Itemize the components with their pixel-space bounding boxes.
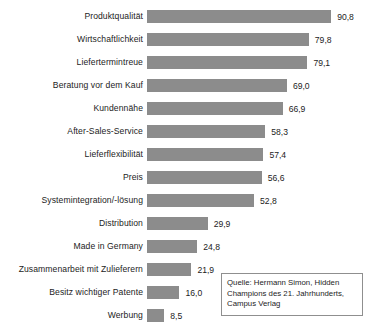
category-label: Wirtschaftlichkeit bbox=[0, 33, 143, 46]
value-label: 79,1 bbox=[313, 57, 330, 69]
value-label: 69,0 bbox=[293, 80, 310, 92]
bar bbox=[147, 125, 265, 138]
category-label: Preis bbox=[0, 171, 143, 184]
bar-track: 57,4 bbox=[143, 148, 370, 161]
bar bbox=[147, 286, 179, 299]
value-label: 57,4 bbox=[269, 149, 286, 161]
bar bbox=[147, 309, 164, 322]
bar-track: 79,8 bbox=[143, 33, 370, 46]
bar bbox=[147, 217, 208, 230]
bar bbox=[147, 10, 331, 23]
value-label: 24,8 bbox=[203, 241, 220, 253]
bar bbox=[147, 102, 283, 115]
bar-row: Distribution29,9 bbox=[0, 217, 370, 240]
category-label: Werbung bbox=[0, 309, 143, 322]
category-label: Systemintegration/-lösung bbox=[0, 194, 143, 207]
value-label: 58,3 bbox=[271, 126, 288, 138]
category-label: Zusammenarbeit mit Zulieferern bbox=[0, 263, 143, 276]
bar bbox=[147, 171, 262, 184]
bar-track: 56,6 bbox=[143, 171, 370, 184]
bar-track: 24,8 bbox=[143, 240, 370, 253]
bar-row: Made in Germany24,8 bbox=[0, 240, 370, 263]
source-line-1: Quelle: Hermann Simon, Hidden bbox=[227, 278, 357, 289]
category-label: Kundennähe bbox=[0, 102, 143, 115]
category-label: Liefertermintreue bbox=[0, 56, 143, 69]
value-label: 8,5 bbox=[170, 310, 182, 322]
value-label: 52,8 bbox=[260, 195, 277, 207]
category-label: After-Sales-Service bbox=[0, 125, 143, 138]
bar-track: 58,3 bbox=[143, 125, 370, 138]
bar-row: Wirtschaftlichkeit79,8 bbox=[0, 33, 370, 56]
bar-track: 29,9 bbox=[143, 217, 370, 230]
bar-row: Lieferflexibilität57,4 bbox=[0, 148, 370, 171]
value-label: 16,0 bbox=[185, 287, 202, 299]
bar bbox=[147, 240, 197, 253]
value-label: 90,8 bbox=[337, 11, 354, 23]
bar bbox=[147, 56, 307, 69]
category-label: Besitz wichtiger Patente bbox=[0, 286, 143, 299]
category-label: Distribution bbox=[0, 217, 143, 230]
bar bbox=[147, 263, 191, 276]
value-label: 29,9 bbox=[214, 218, 231, 230]
bar-row: Liefertermintreue79,1 bbox=[0, 56, 370, 79]
bar-chart: Produktqualität90,8Wirtschaftlichkeit79,… bbox=[0, 0, 370, 329]
bar-track: 69,0 bbox=[143, 79, 370, 92]
bar-row: Kundennähe66,9 bbox=[0, 102, 370, 125]
category-label: Made in Germany bbox=[0, 240, 143, 253]
value-label: 21,9 bbox=[197, 264, 214, 276]
bar-row: Preis56,6 bbox=[0, 171, 370, 194]
bar-row: After-Sales-Service58,3 bbox=[0, 125, 370, 148]
bar-row: Produktqualität90,8 bbox=[0, 10, 370, 33]
source-note-box: Quelle: Hermann Simon, Hidden Champions … bbox=[221, 273, 363, 316]
bar-track: 79,1 bbox=[143, 56, 370, 69]
category-label: Beratung vor dem Kauf bbox=[0, 79, 143, 92]
bar-track: 52,8 bbox=[143, 194, 370, 207]
source-line-3: Campus Verlag bbox=[227, 299, 357, 310]
category-label: Produktqualität bbox=[0, 10, 143, 23]
bar-row: Systemintegration/-lösung52,8 bbox=[0, 194, 370, 217]
bar bbox=[147, 33, 309, 46]
source-line-2: Champions des 21. Jahrhunderts, bbox=[227, 289, 357, 300]
bar-track: 90,8 bbox=[143, 10, 370, 23]
bar bbox=[147, 148, 263, 161]
bar-row: Beratung vor dem Kauf69,0 bbox=[0, 79, 370, 102]
value-label: 79,8 bbox=[315, 34, 332, 46]
category-label: Lieferflexibilität bbox=[0, 148, 143, 161]
value-label: 66,9 bbox=[289, 103, 306, 115]
bar bbox=[147, 79, 287, 92]
bar bbox=[147, 194, 254, 207]
bar-track: 66,9 bbox=[143, 102, 370, 115]
value-label: 56,6 bbox=[268, 172, 285, 184]
